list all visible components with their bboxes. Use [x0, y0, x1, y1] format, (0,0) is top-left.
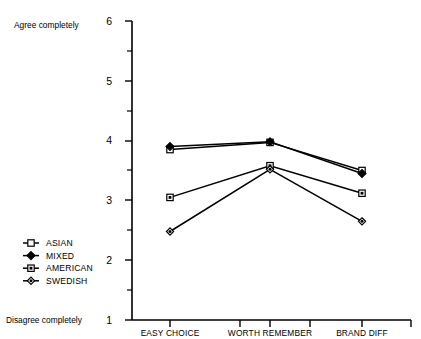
legend-marker-mixed-icon [27, 252, 35, 260]
datapoint-swedish-2 [358, 218, 365, 225]
ytick-label-6: 6 [106, 15, 112, 27]
xaxis-label-worth-remember: WORTH REMEMBER [228, 328, 312, 338]
axis-bottom-anchor-label: Disagree completely [6, 315, 83, 325]
legend-marker-american-icon [28, 265, 34, 271]
xaxis-label-brand-diff: BRAND DIFF [336, 328, 388, 338]
chart-legend: ASIANMIXEDAMERICANSWEDISH [23, 238, 93, 286]
legend-label-asian: ASIAN [46, 238, 73, 248]
datapoint-american-0 [167, 194, 173, 200]
legend-marker-swedish-icon [27, 277, 34, 284]
series-american [167, 163, 365, 201]
series-line-swedish [170, 169, 362, 231]
ytick-label-3: 3 [106, 194, 112, 206]
ytick-label-4: 4 [106, 134, 112, 146]
xaxis-label-easy-choice: EASY CHOICE [141, 328, 200, 338]
axis-top-anchor-label: Agree completely [14, 20, 80, 30]
legend-item-swedish[interactable]: SWEDISH [23, 276, 88, 286]
legend-item-mixed[interactable]: MIXED [23, 251, 74, 261]
legend-label-swedish: SWEDISH [46, 276, 88, 286]
datapoint-american-2 [359, 190, 365, 196]
legend-item-asian[interactable]: ASIAN [23, 238, 73, 248]
series-asian [167, 139, 365, 174]
chart-canvas: Agree completely Disagree completely 6 5… [0, 0, 421, 339]
datapoint-swedish-0 [166, 228, 173, 235]
series-line-american [170, 166, 362, 198]
legend-label-american: AMERICAN [46, 263, 93, 273]
line-chart: Agree completely Disagree completely 6 5… [0, 0, 421, 339]
legend-marker-asian-icon [28, 240, 34, 246]
ytick-label-5: 5 [106, 75, 112, 87]
series-swedish [166, 166, 365, 235]
plot-series-layer [166, 138, 366, 235]
ytick-label-1: 1 [106, 314, 112, 326]
series-line-mixed [170, 142, 362, 174]
legend-item-american[interactable]: AMERICAN [23, 263, 93, 273]
ytick-label-2: 2 [106, 254, 112, 266]
legend-label-mixed: MIXED [46, 251, 74, 261]
